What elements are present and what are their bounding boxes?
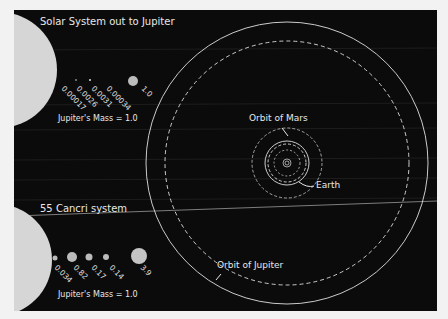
solar-mass-note: Jupiter's Mass = 1.0 xyxy=(58,114,138,123)
mars-orbit xyxy=(252,128,322,198)
solar-system-title: Solar System out to Jupiter xyxy=(40,16,175,27)
cancri-mass-note: Jupiter's Mass = 1.0 xyxy=(58,290,138,299)
earth-orbit-ring xyxy=(265,141,309,185)
outer-orbit xyxy=(146,22,428,304)
orbit-of-mars-label: Orbit of Mars xyxy=(249,113,308,123)
orbit-of-jupiter-label: Orbit of Jupiter xyxy=(217,260,283,270)
jupiter-orbit xyxy=(165,41,409,285)
cancri-title: 55 Cancri system xyxy=(40,203,127,214)
cancri-star-icon xyxy=(14,204,52,311)
diagram-panel: Solar System out to Jupiter 0.00017 0.00… xyxy=(14,10,437,311)
sun-icon xyxy=(14,12,57,128)
earth-label: Earth xyxy=(316,180,340,190)
